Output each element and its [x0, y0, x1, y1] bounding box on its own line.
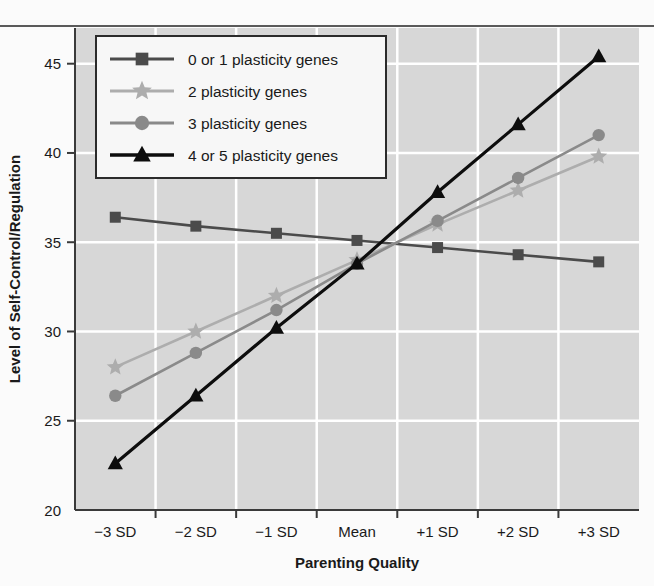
- data-point: [270, 304, 282, 316]
- data-point: [271, 228, 282, 239]
- data-point: [190, 221, 201, 232]
- data-point: [513, 249, 524, 260]
- x-tick-label: −1 SD: [255, 523, 297, 540]
- x-axis-ticks: −3 SD−2 SD−1 SDMean+1 SD+2 SD+3 SD: [94, 510, 620, 540]
- x-tick-label: −3 SD: [94, 523, 136, 540]
- legend-label: 2 plasticity genes: [188, 83, 307, 100]
- x-tick-label: +1 SD: [417, 523, 459, 540]
- legend-marker: [136, 53, 149, 66]
- y-tick-label: 45: [44, 55, 61, 72]
- x-tick-label: +3 SD: [578, 523, 620, 540]
- x-tick-label: Mean: [338, 523, 376, 540]
- data-point: [432, 242, 443, 253]
- y-tick-label: 20: [44, 502, 61, 519]
- y-axis-title: Level of Self-Control/Regulation: [6, 155, 23, 383]
- data-point: [593, 256, 604, 267]
- y-tick-label: 25: [44, 412, 61, 429]
- x-axis-title: Parenting Quality: [295, 554, 420, 571]
- data-point: [109, 390, 121, 402]
- line-chart: 202530354045−3 SD−2 SD−1 SDMean+1 SD+2 S…: [0, 0, 654, 586]
- legend-marker: [135, 116, 149, 130]
- legend: 0 or 1 plasticity genes2 plasticity gene…: [96, 36, 386, 178]
- data-point: [431, 215, 443, 227]
- data-point: [190, 347, 202, 359]
- y-tick-label: 35: [44, 234, 61, 251]
- data-point: [512, 172, 524, 184]
- figure-container: 202530354045−3 SD−2 SD−1 SDMean+1 SD+2 S…: [0, 0, 654, 586]
- y-tick-label: 30: [44, 323, 61, 340]
- legend-label: 4 or 5 plasticity genes: [188, 147, 338, 164]
- data-point: [352, 235, 363, 246]
- y-tick-label: 40: [44, 144, 61, 161]
- legend-item[interactable]: 3 plasticity genes: [110, 115, 307, 132]
- data-point: [593, 129, 605, 141]
- y-axis-ticks: 202530354045: [44, 55, 75, 518]
- x-tick-label: −2 SD: [175, 523, 217, 540]
- x-tick-label: +2 SD: [497, 523, 539, 540]
- legend-label: 0 or 1 plasticity genes: [188, 51, 338, 68]
- data-point: [110, 212, 121, 223]
- legend-label: 3 plasticity genes: [188, 115, 307, 132]
- top-rule-divider: [0, 25, 654, 27]
